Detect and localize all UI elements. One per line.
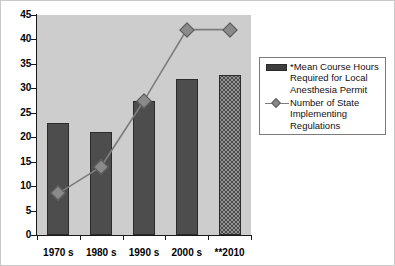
y-tick-label: 40 xyxy=(5,34,31,44)
x-tick xyxy=(80,235,81,240)
y-tick-label: 15 xyxy=(5,157,31,167)
line-marker-1990s xyxy=(136,93,152,109)
legend-item-line: Number of State Implementing Regulations xyxy=(264,97,382,131)
line-marker-icon xyxy=(264,98,290,109)
x-tick-label: **2010 xyxy=(200,247,260,258)
line-marker-1970s xyxy=(51,186,67,202)
y-axis-labels: 051015202530354045 xyxy=(1,1,31,266)
line-marker-2010 xyxy=(222,22,238,38)
x-tick xyxy=(165,235,166,240)
chart-legend: *Mean Course Hours Required for Local An… xyxy=(259,57,386,135)
x-tick xyxy=(37,235,38,240)
y-tick-label: 5 xyxy=(5,206,31,216)
line-marker-1980s xyxy=(93,159,109,175)
legend-item-bar-label: *Mean Course Hours Required for Local An… xyxy=(290,61,379,95)
y-tick-label: 20 xyxy=(5,132,31,142)
line-series-markers xyxy=(37,15,251,235)
line-marker-2000s xyxy=(179,22,195,38)
x-tick xyxy=(208,235,209,240)
y-tick-label: 45 xyxy=(5,10,31,20)
legend-item-line-label: Number of State Implementing Regulations xyxy=(290,97,359,131)
y-tick-label: 10 xyxy=(5,181,31,191)
chart-figure: 051015202530354045 1970 s1980 s1990 s200… xyxy=(0,0,395,266)
x-tick xyxy=(251,235,252,240)
y-tick-label: 25 xyxy=(5,108,31,118)
y-tick-label: 35 xyxy=(5,59,31,69)
x-axis-line xyxy=(36,235,252,236)
legend-item-bar: *Mean Course Hours Required for Local An… xyxy=(264,61,382,95)
y-tick-label: 0 xyxy=(5,230,31,240)
bar-swatch-icon xyxy=(264,62,290,73)
x-tick xyxy=(123,235,124,240)
y-tick-label: 30 xyxy=(5,83,31,93)
